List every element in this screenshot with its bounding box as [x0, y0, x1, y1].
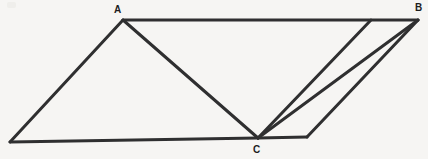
segments-group: [10, 20, 418, 142]
geometry-figure: A B C: [0, 0, 428, 159]
vertex-label-c: C: [253, 145, 260, 155]
vertex-label-a: A: [114, 5, 121, 15]
bottom-edge-C-to-E: [258, 137, 307, 138]
geometry-canvas: [0, 0, 428, 159]
cevian-C-to-B: [258, 20, 418, 138]
right-edge-E-to-B: [307, 20, 418, 137]
vertex-label-b: B: [415, 3, 422, 13]
cevian-A-to-C: [123, 20, 258, 138]
cevian-C-to-F: [258, 20, 371, 138]
left-edge-D-to-A: [10, 20, 123, 142]
bottom-edge-D-to-C: [10, 138, 258, 142]
